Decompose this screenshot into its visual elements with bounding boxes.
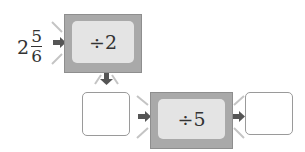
- whole-part: 2: [17, 36, 29, 58]
- machine-label: ÷5: [158, 99, 225, 139]
- ray: [52, 22, 62, 32]
- arrow-down-icon: [100, 72, 113, 85]
- ray: [52, 54, 62, 64]
- machine-divide-5: ÷5: [150, 92, 233, 149]
- input-mixed-number: 2 5 6: [17, 28, 42, 65]
- machine-divide-2: ÷2: [64, 14, 142, 73]
- denominator: 6: [31, 48, 42, 65]
- arrow-right-icon: [232, 111, 245, 122]
- numerator: 5: [31, 28, 42, 45]
- machine-label: ÷2: [72, 21, 134, 63]
- answer-box-2[interactable]: [245, 92, 293, 135]
- answer-box-1[interactable]: [82, 92, 130, 136]
